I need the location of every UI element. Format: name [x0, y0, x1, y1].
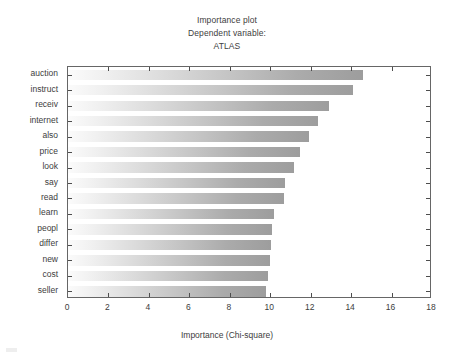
y-tick-right — [426, 276, 430, 277]
y-tick — [68, 276, 72, 277]
x-tick — [230, 293, 231, 297]
x-tick-top — [108, 67, 109, 71]
x-axis-labels: 024681012141618 — [0, 302, 454, 316]
x-axis-label-8: 8 — [226, 302, 231, 313]
bar-new — [68, 255, 270, 265]
y-tick-right — [426, 75, 430, 76]
y-axis-label-read: read — [41, 192, 58, 202]
x-tick-top — [351, 67, 352, 71]
bar-receiv — [68, 101, 329, 111]
x-axis-title: Importance (Chi-square) — [0, 330, 454, 340]
x-tick — [392, 293, 393, 297]
y-tick — [68, 152, 72, 153]
bar-also — [68, 131, 309, 141]
x-axis-label-4: 4 — [146, 302, 151, 313]
bar-row — [68, 129, 430, 144]
bar-row — [68, 98, 430, 113]
bar-row — [68, 191, 430, 206]
bar-instruct — [68, 85, 353, 95]
x-tick — [189, 293, 190, 297]
y-axis-label-price: price — [40, 146, 58, 156]
bar-price — [68, 147, 300, 157]
x-tick-top — [270, 67, 271, 71]
bar-row — [68, 113, 430, 128]
bar-look — [68, 162, 294, 172]
y-tick-right — [426, 121, 430, 122]
bar-learn — [68, 209, 274, 219]
x-tick — [351, 293, 352, 297]
y-tick-right — [426, 152, 430, 153]
bar-row — [68, 160, 430, 175]
bar-auction — [68, 70, 363, 80]
y-tick — [68, 168, 72, 169]
x-axis-label-0: 0 — [65, 302, 70, 313]
y-tick — [68, 214, 72, 215]
x-axis-label-2: 2 — [105, 302, 110, 313]
y-tick — [68, 75, 72, 76]
x-axis-label-18: 18 — [426, 302, 435, 313]
y-axis-label-also: also — [42, 130, 58, 140]
y-tick — [68, 245, 72, 246]
y-tick-right — [426, 291, 430, 292]
y-tick-right — [426, 260, 430, 261]
y-axis-label-differ: differ — [39, 238, 58, 248]
bar-row — [68, 175, 430, 190]
y-axis-label-cost: cost — [42, 269, 58, 279]
y-tick — [68, 137, 72, 138]
bar-differ — [68, 240, 271, 250]
x-axis-label-10: 10 — [264, 302, 273, 313]
x-tick-top — [189, 67, 190, 71]
chart-title: Importance plot — [0, 14, 454, 27]
bars-layer — [68, 67, 430, 297]
y-tick-right — [426, 90, 430, 91]
bar-row — [68, 222, 430, 237]
y-axis-label-auction: auction — [31, 68, 58, 78]
x-tick-top — [311, 67, 312, 71]
bar-seller — [68, 286, 266, 296]
bar-row — [68, 82, 430, 97]
plot-area — [67, 66, 431, 298]
bar-say — [68, 178, 285, 188]
bar-row — [68, 67, 430, 82]
bar-row — [68, 284, 430, 299]
y-axis-label-instruct: instruct — [31, 84, 58, 94]
y-tick-right — [426, 137, 430, 138]
x-tick-top — [149, 67, 150, 71]
x-tick — [108, 293, 109, 297]
y-axis-label-receiv: receiv — [35, 99, 58, 109]
y-tick-right — [426, 245, 430, 246]
y-tick — [68, 198, 72, 199]
x-tick-top — [230, 67, 231, 71]
y-tick — [68, 229, 72, 230]
bar-row — [68, 237, 430, 252]
x-axis-label-16: 16 — [386, 302, 395, 313]
y-axis-label-learn: learn — [39, 207, 58, 217]
y-axis-label-new: new — [42, 254, 58, 264]
y-tick — [68, 121, 72, 122]
bar-read — [68, 193, 284, 203]
bar-cost — [68, 271, 268, 281]
y-tick — [68, 291, 72, 292]
y-tick — [68, 183, 72, 184]
x-tick — [149, 293, 150, 297]
y-axis-label-internet: internet — [30, 115, 58, 125]
x-axis-label-14: 14 — [345, 302, 354, 313]
y-tick — [68, 106, 72, 107]
y-tick-right — [426, 229, 430, 230]
x-axis-label-12: 12 — [305, 302, 314, 313]
bar-peopl — [68, 224, 272, 234]
x-tick — [270, 293, 271, 297]
x-tick — [311, 293, 312, 297]
y-axis-label-say: say — [45, 177, 58, 187]
y-tick-right — [426, 168, 430, 169]
y-axis-label-look: look — [42, 161, 58, 171]
bar-row — [68, 268, 430, 283]
bar-row — [68, 253, 430, 268]
chart-subtitle-variable: ATLAS — [0, 40, 454, 53]
y-tick-right — [426, 198, 430, 199]
x-tick-top — [392, 67, 393, 71]
y-tick-right — [426, 214, 430, 215]
bar-row — [68, 144, 430, 159]
y-tick-right — [426, 106, 430, 107]
importance-plot-chart: Importance plot Dependent variable: ATLA… — [0, 0, 454, 358]
